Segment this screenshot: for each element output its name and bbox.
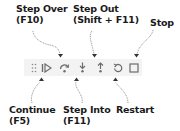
callout-arrows <box>0 0 180 131</box>
